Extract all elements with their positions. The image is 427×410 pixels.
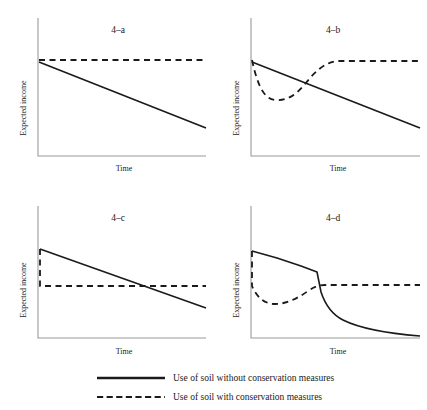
x-axis-label: Time: [116, 164, 133, 173]
series-without-conservation: [252, 62, 420, 128]
panel-axes: [38, 18, 206, 156]
series-without-conservation: [39, 62, 206, 128]
y-axis-label: Expected income: [19, 80, 28, 136]
x-axis-label: Time: [330, 164, 347, 173]
panel-title: 4–a: [111, 25, 126, 35]
legend-entry-solid: Use of soil without conservation measure…: [0, 368, 427, 387]
legend-sample-solid-line: [97, 373, 165, 383]
series-with-conservation: [252, 251, 420, 304]
legend-entry-dashed: Use of soil with conservation measures: [0, 387, 427, 406]
panel-axes: [251, 18, 420, 156]
figure-grid: 4–a Time Expected income 4–b Time Expect…: [0, 0, 427, 368]
legend: Use of soil without conservation measure…: [0, 368, 427, 410]
legend-sample-dashed-line: [97, 392, 165, 402]
panel-axes: [38, 206, 206, 338]
y-axis-label: Expected income: [232, 262, 241, 318]
y-axis-label: Expected income: [232, 80, 241, 136]
legend-label-with-conservation: Use of soil with conservation measures: [165, 392, 322, 402]
series-without-conservation: [40, 249, 206, 308]
x-axis-label: Time: [116, 347, 133, 356]
panel-axes: [251, 206, 420, 338]
x-axis-label: Time: [330, 347, 347, 356]
legend-label-without-conservation: Use of soil without conservation measure…: [165, 373, 334, 383]
panel-4-d: 4–d Time Expected income: [213, 186, 427, 368]
series-with-conservation: [252, 60, 420, 100]
panel-4-a: 4–a Time Expected income: [0, 0, 213, 186]
series-without-conservation: [252, 251, 420, 336]
panel-title: 4–c: [111, 213, 125, 223]
series-with-conservation: [40, 249, 206, 286]
y-axis-label: Expected income: [19, 262, 28, 318]
panel-title: 4–d: [326, 213, 341, 223]
panel-title: 4–b: [326, 25, 341, 35]
panel-4-c: 4–c Time Expected income: [0, 186, 213, 368]
panel-4-b: 4–b Time Expected income: [213, 0, 427, 186]
